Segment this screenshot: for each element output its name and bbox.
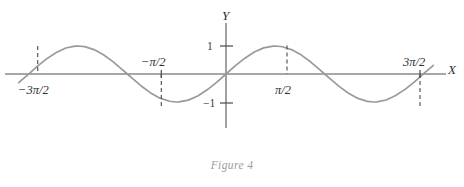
x-label-neg-pi-over-2: −π/2 [141, 55, 165, 69]
x-label-3pi-over-2: 3π/2 [402, 55, 425, 69]
y-label-one: 1 [207, 40, 213, 52]
y-label-negative-one: −1 [203, 97, 215, 109]
figure-container: −3π/2 −π/2 π/2 3π/2 1 −1 X Y Figure 4 [0, 0, 464, 187]
y-axis-name: Y [222, 8, 231, 23]
x-label-neg-3pi-over-2: −3π/2 [18, 83, 49, 97]
figure-caption: Figure 4 [0, 159, 464, 171]
x-label-pi-over-2: π/2 [275, 83, 291, 97]
x-axis-name: X [447, 62, 457, 77]
